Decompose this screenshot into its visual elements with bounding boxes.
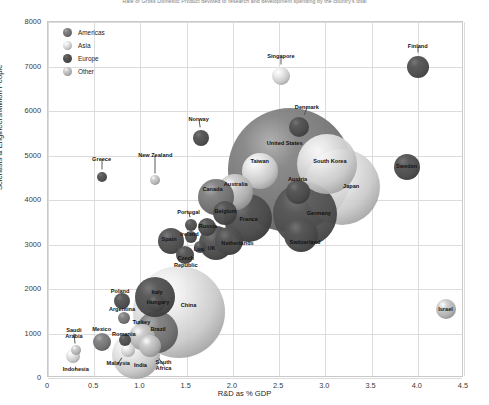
legend-swatch-icon bbox=[63, 28, 72, 37]
bubble-mexico[interactable] bbox=[93, 333, 111, 351]
bubble-czech-republic[interactable] bbox=[176, 246, 194, 264]
legend-label: Europe bbox=[78, 55, 99, 62]
grid-line-horizontal bbox=[48, 334, 462, 335]
bubble-russia[interactable] bbox=[198, 218, 216, 236]
y-tick-label: 0 bbox=[0, 373, 41, 382]
bubble-south-africa[interactable] bbox=[139, 335, 161, 357]
grid-line-horizontal bbox=[48, 378, 462, 379]
bubble-norway[interactable] bbox=[193, 130, 209, 146]
x-tick-label: 3.5 bbox=[365, 381, 375, 390]
legend-label: Other bbox=[78, 68, 94, 75]
leader-line bbox=[188, 212, 190, 217]
bubble-singapore[interactable] bbox=[272, 67, 290, 85]
leader-line bbox=[73, 333, 75, 343]
grid-line-vertical bbox=[464, 22, 465, 376]
bubble-finland[interactable] bbox=[407, 56, 429, 78]
y-tick-label: 8000 bbox=[0, 17, 41, 26]
x-tick-label: 4.5 bbox=[458, 381, 468, 390]
leader-line bbox=[155, 155, 156, 173]
chart-title: Rate of Gross Domestic Product devoted t… bbox=[0, 0, 489, 6]
bubble-denmark[interactable] bbox=[289, 117, 309, 137]
bubble-romania[interactable] bbox=[119, 334, 131, 346]
y-tick-label: 6000 bbox=[0, 106, 41, 115]
bubble-lux.[interactable] bbox=[194, 241, 206, 253]
y-tick-label: 3000 bbox=[0, 240, 41, 249]
y-tick-label: 5000 bbox=[0, 151, 41, 160]
y-tick-label: 4000 bbox=[0, 195, 41, 204]
x-tick-label: 1.5 bbox=[181, 381, 191, 390]
legend-label: Asia bbox=[78, 42, 90, 49]
legend-item-americas[interactable]: Americas bbox=[63, 26, 141, 39]
bubble-netherlands[interactable] bbox=[215, 227, 243, 255]
x-tick-label: 2.5 bbox=[273, 381, 283, 390]
grid-line-horizontal bbox=[48, 245, 462, 246]
legend-swatch-icon bbox=[63, 41, 72, 50]
grid-line-horizontal bbox=[48, 289, 462, 290]
bubble-portugal[interactable] bbox=[185, 219, 197, 231]
x-tick-label: 4.0 bbox=[412, 381, 422, 390]
bubble-austria[interactable] bbox=[286, 180, 310, 204]
legend-swatch-icon bbox=[63, 67, 72, 76]
legend-item-europe[interactable]: Europe bbox=[63, 52, 141, 65]
legend-item-asia[interactable]: Asia bbox=[63, 39, 141, 52]
bubble-belgium[interactable] bbox=[213, 201, 237, 225]
leader-line bbox=[101, 159, 102, 169]
grid-line-vertical bbox=[48, 22, 49, 376]
bubble-new-zealand[interactable] bbox=[150, 175, 160, 185]
legend: AmericasAsiaEuropeOther bbox=[63, 26, 141, 84]
x-axis-label: R&D as % GDP bbox=[0, 389, 489, 398]
x-tick-label: 0 bbox=[45, 381, 49, 390]
bubble-greece[interactable] bbox=[97, 172, 107, 182]
legend-label: Americas bbox=[78, 29, 105, 36]
bubble-chart-figure: Rate of Gross Domestic Product devoted t… bbox=[0, 0, 489, 405]
y-tick-label: 1000 bbox=[0, 329, 41, 338]
x-tick-label: 1.0 bbox=[134, 381, 144, 390]
y-tick-label: 2000 bbox=[0, 284, 41, 293]
x-tick-label: 3.0 bbox=[319, 381, 329, 390]
bubble-sweden[interactable] bbox=[394, 154, 420, 180]
bubble-switzerland[interactable] bbox=[284, 218, 318, 252]
legend-swatch-icon bbox=[63, 54, 72, 63]
y-axis-label: Scientists & Engineers/Million People bbox=[0, 65, 4, 190]
bubble-israel[interactable] bbox=[436, 299, 456, 319]
legend-item-other[interactable]: Other bbox=[63, 65, 141, 78]
grid-line-horizontal bbox=[48, 111, 462, 112]
bubble-poland[interactable] bbox=[114, 293, 130, 309]
x-tick-label: 0.5 bbox=[88, 381, 98, 390]
bubble-argentina[interactable] bbox=[118, 312, 130, 324]
x-tick-label: 2.0 bbox=[227, 381, 237, 390]
y-tick-label: 7000 bbox=[0, 62, 41, 71]
leader-line bbox=[417, 47, 418, 53]
bubble-hungary[interactable] bbox=[147, 294, 165, 312]
leader-line bbox=[198, 119, 200, 127]
grid-line-horizontal bbox=[48, 22, 462, 23]
bubble-saudi-arabia[interactable] bbox=[71, 345, 81, 355]
leader-line bbox=[280, 57, 281, 65]
leader-line bbox=[75, 366, 77, 369]
